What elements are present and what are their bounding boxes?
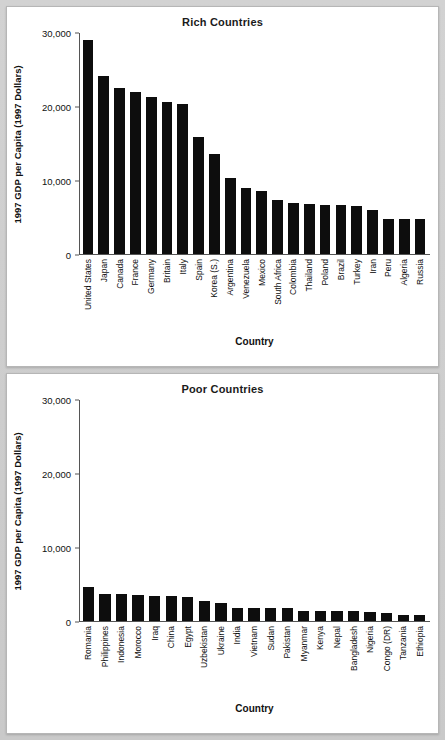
bar [265,608,276,621]
y-tick-label: 20,000 [42,102,71,113]
x-tick-label-slot: Venezuela [238,257,254,335]
bar [114,88,125,254]
x-tick-label-slot: Turkey [349,257,365,335]
x-tick-label-slot: Kenya [312,624,329,702]
bar-slot [286,33,302,254]
plot-area-rich: 010,00020,00030,000 United StatesJapanCa… [29,33,430,255]
bar [177,104,188,254]
bar-slot [380,33,396,254]
chart-title-rich: Rich Countries [7,7,438,28]
bar-slot [196,400,213,621]
bar-slot [80,400,97,621]
bar-slot [213,400,230,621]
bar-slot [396,33,412,254]
x-tick-label: Iran [368,259,378,274]
x-tick-label-slot: Brazil [333,257,349,335]
chart-panel-poor: Poor Countries 1997 GDP per Capita (1997… [6,373,439,734]
bar-series-poor [80,400,428,621]
x-tick-label: Congo (DR) [382,626,392,671]
bar [149,596,160,621]
bar [232,608,243,621]
x-tick-label-slot: Poland [317,257,333,335]
bar [367,210,378,254]
y-tick-label: 20,000 [42,469,71,480]
chart-title-poor: Poor Countries [7,374,438,395]
x-tick-label-slot: United States [80,257,96,335]
y-axis-label-text-rich: 1997 GDP per Capita (1997 Dollars) [12,65,23,223]
bar-slot [412,33,428,254]
x-tick-label-slot: South Africa [270,257,286,335]
x-tick-label: Uzbekistan [199,626,209,668]
bar-slot [112,33,128,254]
bar-slot [345,400,362,621]
bar [256,191,267,254]
bar [166,596,177,621]
x-tick-label-slot: Colombia [286,257,302,335]
bar-slot [349,33,365,254]
x-tick-label-slot: Spain [191,257,207,335]
bar [99,594,110,621]
chart-panel-rich: Rich Countries 1997 GDP per Capita (1997… [6,6,439,367]
bar-slot [254,33,270,254]
bar-slot [96,33,112,254]
y-tick-label: 30,000 [42,28,71,39]
x-tick-label-slot: Argentina [222,257,238,335]
bar [162,102,173,254]
bar-slot [191,33,207,254]
bar [414,615,425,621]
x-tick-label-slot: Iraq [146,624,163,702]
bar [348,611,359,621]
x-axis-tick-labels-rich: United StatesJapanCanadaFranceGermanyBri… [80,257,428,335]
chart-area-rich: 1997 GDP per Capita (1997 Dollars) 010,0… [7,33,438,366]
bar-slot [130,400,147,621]
bar [298,611,309,621]
bar [182,597,193,621]
bar [351,206,362,254]
bar [272,200,283,255]
x-tick-label-slot: Myanmar [296,624,313,702]
x-axis-line-poor [79,621,430,622]
x-tick-label: Nigeria [365,626,375,653]
x-tick-label: Tanzania [398,626,408,660]
bar [215,603,226,621]
x-tick-label-slot: Russia [412,257,428,335]
x-tick-label: Bangladesh [349,626,359,671]
x-tick-label: Canada [115,259,125,289]
x-tick-label: Thailand [304,259,314,292]
x-tick-label: Indonesia [116,626,126,663]
bar [209,154,220,254]
bar-slot [175,33,191,254]
x-tick-label-slot: Canada [112,257,128,335]
x-tick-label: Venezuela [241,259,251,299]
x-tick-label-slot: Italy [175,257,191,335]
x-tick-label-slot: Ethiopia [412,624,429,702]
bar-slot [378,400,395,621]
chart-area-poor: 1997 GDP per Capita (1997 Dollars) 010,0… [7,400,438,733]
x-tick-label: Korea (S.) [209,259,219,298]
x-tick-label: Iraq [150,626,160,641]
x-tick-label: Ukraine [216,626,226,655]
bar-slot [80,33,96,254]
bar-slot [333,33,349,254]
bar-slot [97,400,114,621]
bar [304,204,315,254]
bar [336,205,347,254]
x-tick-label: Myanmar [299,626,309,661]
bar [315,611,326,621]
x-tick-label: France [130,259,140,285]
bar-slot [127,33,143,254]
x-tick-label-slot: Uzbekistan [196,624,213,702]
x-tick-label-slot: Congo (DR) [378,624,395,702]
x-tick-label-slot: Nepal [329,624,346,702]
bar [199,601,210,621]
y-axis-ticks-poor: 010,00020,00030,000 [29,400,75,622]
bar-slot [222,33,238,254]
x-tick-label: China [166,626,176,648]
x-tick-label-slot: Indonesia [113,624,130,702]
x-tick-label-slot: Philippines [97,624,114,702]
x-tick-label: Pakistan [282,626,292,659]
bar [415,219,426,254]
plot-area-poor: 010,00020,00030,000 RomaniaPhilippinesIn… [29,400,430,622]
bar [83,587,94,621]
x-tick-label: Philippines [100,626,110,667]
